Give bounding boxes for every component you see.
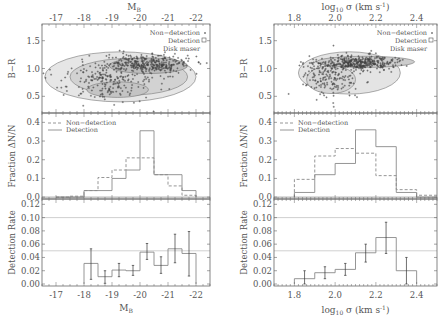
legend-detection: Detection xyxy=(168,37,200,45)
hist-legend-detection: Detection xyxy=(66,126,98,134)
y-tick-label: 0.10 xyxy=(21,213,40,223)
y-tick-label: 1.5 xyxy=(258,36,272,46)
y-tick-label: 0.5 xyxy=(258,91,272,101)
y-tick-label: 0.06 xyxy=(21,239,40,249)
top-axis-tick-label: 2.0 xyxy=(328,13,342,23)
histogram-non-detection xyxy=(294,149,437,198)
bottom-axis-tick-label: -19 xyxy=(105,290,119,300)
y-tick-label: 0.12 xyxy=(21,199,40,209)
y-tick-label: 1.0 xyxy=(258,64,272,74)
bottom-axis-tick-label: -20 xyxy=(133,290,147,300)
legend-detection: Detection xyxy=(395,37,427,45)
y-tick-label: 0.08 xyxy=(21,226,40,236)
legend-nondetection: Non−detection xyxy=(377,29,427,37)
y-tick-label: 0.06 xyxy=(253,239,272,249)
left-column-plots: -17-18-19-20-21-22MB-17-18-19-20-21-22MB… xyxy=(7,2,210,314)
y-tick-label: 0.02 xyxy=(253,266,272,276)
panel-scatter: Non−detectionDetectionDisk maser0.51.01.… xyxy=(7,24,210,113)
histogram-detection xyxy=(294,130,437,197)
error-bar xyxy=(90,249,92,280)
panel-step_errorbar: 0.000.020.040.060.080.100.12Detection Ra… xyxy=(7,199,210,289)
top-axis-title: log10 σ (km s-1) xyxy=(322,1,390,13)
y-tick-label: 1.0 xyxy=(26,64,40,74)
y-axis-title: Fraction ΔN/N xyxy=(239,124,249,188)
detection-rate-step xyxy=(294,238,416,284)
bottom-axis-title: MB xyxy=(119,303,133,314)
legend-nondetection: Non−detection xyxy=(150,29,200,37)
y-tick-label: 0.04 xyxy=(253,252,272,262)
bottom-axis-tick-label: -22 xyxy=(189,290,203,300)
top-axis-tick-label: -21 xyxy=(161,13,175,23)
hist-legend-detection: Detection xyxy=(298,126,330,134)
y-tick-label: 0.10 xyxy=(253,213,272,223)
y-tick-label: 0.4 xyxy=(26,117,40,127)
y-tick-label: 0.08 xyxy=(253,226,272,236)
y-tick-label: 1.5 xyxy=(26,36,40,46)
detection-rate-step xyxy=(84,249,196,284)
y-tick-label: 0.12 xyxy=(253,199,272,209)
y-tick-label: 0.1 xyxy=(26,173,40,183)
top-axis-tick-label: 2.2 xyxy=(369,13,383,23)
panel-step: Non−detectionDetection0.00.10.20.30.4Fra… xyxy=(7,113,210,202)
bottom-axis-tick-label: -17 xyxy=(49,290,63,300)
y-tick-label: 0.1 xyxy=(258,173,272,183)
error-bar xyxy=(146,243,148,259)
y-axis-title: B−R xyxy=(7,58,17,78)
bottom-axis-tick-label: 2.0 xyxy=(328,290,342,300)
top-axis-tick-label: -18 xyxy=(77,13,91,23)
axes-frame xyxy=(274,199,437,286)
axes-frame xyxy=(42,199,210,286)
y-axis-title: Fraction ΔN/N xyxy=(7,124,17,188)
square-marker-icon xyxy=(202,38,206,42)
y-tick-label: 0.00 xyxy=(21,279,40,289)
panel-step_errorbar: 0.000.020.040.060.080.100.12Detection Ra… xyxy=(239,199,437,289)
y-axis-title: Detection Rate xyxy=(7,210,17,275)
y-tick-label: 0.5 xyxy=(26,91,40,101)
bottom-axis-tick-label: -18 xyxy=(77,290,91,300)
top-axis-tick-label: 1.8 xyxy=(288,13,302,23)
y-tick-label: 0.3 xyxy=(26,136,40,146)
y-axis-title: Detection Rate xyxy=(239,210,249,275)
top-axis-tick-label: -22 xyxy=(189,13,203,23)
top-axis-tick-label: -19 xyxy=(105,13,119,23)
top-axis-tick-label: -20 xyxy=(133,13,147,23)
plus-marker-icon xyxy=(431,32,433,34)
y-tick-label: 0.02 xyxy=(21,266,40,276)
bottom-axis-tick-label: 2.4 xyxy=(410,290,424,300)
bottom-axis-tick-label: -21 xyxy=(161,290,175,300)
y-tick-label: 0.4 xyxy=(258,117,272,127)
y-tick-label: 0.04 xyxy=(21,252,40,262)
square-marker-icon xyxy=(429,38,433,42)
top-axis-tick-label: -17 xyxy=(49,13,63,23)
histogram-detection xyxy=(56,131,196,197)
y-tick-label: 0.00 xyxy=(253,279,272,289)
legend-disk-maser: Disk maser xyxy=(163,45,201,53)
y-tick-label: 0.2 xyxy=(26,155,40,165)
legend-disk-maser: Disk maser xyxy=(390,45,428,53)
bottom-axis-tick-label: 2.2 xyxy=(369,290,383,300)
y-tick-label: 0.2 xyxy=(258,155,272,165)
density-contour xyxy=(87,82,149,98)
plus-marker-icon xyxy=(204,32,206,34)
y-axis-title: B−R xyxy=(239,58,249,78)
panel-scatter: Non−detectionDetectionDisk maser0.51.01.… xyxy=(239,24,437,113)
error-bar xyxy=(303,271,305,284)
y-tick-label: 0.3 xyxy=(258,136,272,146)
right-column-plots: 1.82.02.22.4log10 σ (km s-1)1.82.02.22.4… xyxy=(239,1,437,316)
figure: -17-18-19-20-21-22MB-17-18-19-20-21-22MB… xyxy=(0,0,445,322)
top-axis-tick-label: 2.4 xyxy=(410,13,424,23)
top-axis-title: MB xyxy=(127,2,141,13)
bottom-axis-tick-label: 1.8 xyxy=(288,290,302,300)
bottom-axis-title: log10 σ (km s-1) xyxy=(322,304,390,316)
panel-step: Non−detectionDetection0.00.10.20.30.4Fra… xyxy=(239,113,437,202)
